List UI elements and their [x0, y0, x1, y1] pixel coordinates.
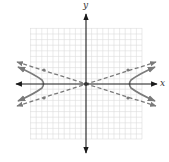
center-point: [84, 82, 88, 86]
y-axis-label: y: [83, 1, 88, 10]
hyperbola-graph: [0, 0, 169, 162]
x-axis-label: x: [160, 79, 165, 88]
